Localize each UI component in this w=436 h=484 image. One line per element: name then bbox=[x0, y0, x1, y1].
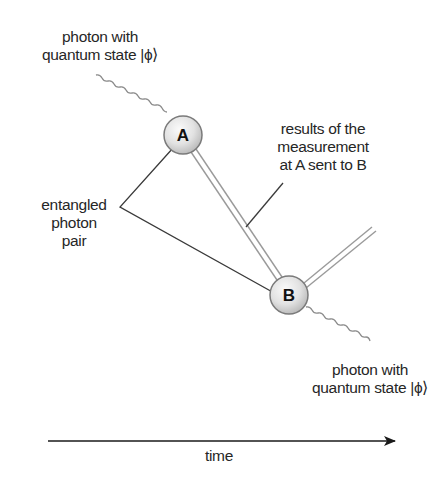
results-line-3: at A sent to B bbox=[263, 156, 383, 174]
photon-in-line-2: quantum state |ϕ⟩ bbox=[30, 46, 170, 64]
photon-in-label: photon with quantum state |ϕ⟩ bbox=[30, 28, 170, 64]
svg-text:A: A bbox=[177, 126, 189, 145]
entangled-label: entangled photon pair bbox=[30, 196, 118, 250]
classical-channel-out bbox=[304, 227, 376, 288]
time-axis-label: time bbox=[189, 447, 249, 465]
results-line-2: measurement bbox=[263, 138, 383, 156]
results-line-1: results of the bbox=[263, 120, 383, 138]
incoming-photon-wave bbox=[96, 75, 167, 112]
photon-out-line-2: quantum state |ϕ⟩ bbox=[300, 379, 436, 397]
entangled-line-1: entangled bbox=[30, 196, 118, 214]
outgoing-photon-wave bbox=[306, 307, 370, 341]
results-pointer bbox=[246, 183, 283, 227]
svg-text:B: B bbox=[283, 286, 295, 305]
entangled-line-3: pair bbox=[30, 232, 118, 250]
results-label: results of the measurement at A sent to … bbox=[263, 120, 383, 174]
node-a: A bbox=[164, 116, 202, 154]
entangled-line-2: photon bbox=[30, 214, 118, 232]
diagram-canvas: A B photon with quantum state |ϕ⟩ result… bbox=[0, 0, 436, 484]
entangled-pointer bbox=[120, 148, 276, 294]
node-b: B bbox=[270, 276, 308, 314]
photon-in-line-1: photon with bbox=[30, 28, 170, 46]
photon-out-line-1: photon with bbox=[300, 361, 436, 379]
photon-out-label: photon with quantum state |ϕ⟩ bbox=[300, 361, 436, 397]
